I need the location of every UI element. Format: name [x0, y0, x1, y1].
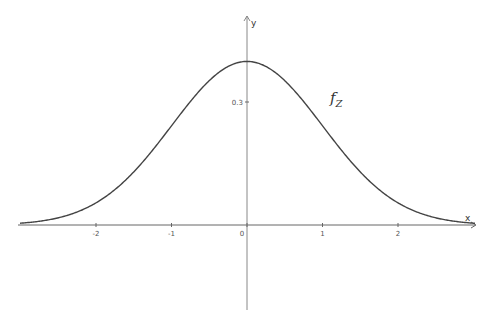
x-tick-label: -1 [168, 230, 175, 238]
x-axis-label: x [465, 213, 471, 223]
y-axis-label: y [251, 18, 257, 28]
x-tick-label: 0 [240, 230, 244, 238]
x-tick-label: 1 [320, 230, 324, 238]
y-tick-label: 0.3 [232, 99, 243, 107]
ticks: -2-10120.3 [93, 99, 401, 239]
axes [18, 16, 476, 310]
function-label: fZ [330, 89, 343, 109]
x-tick-label: 2 [396, 230, 400, 238]
x-tick-label: -2 [93, 230, 100, 238]
chart-plot-area: -2-10120.3 x y [0, 0, 492, 322]
function-label-sub: Z [336, 98, 343, 109]
